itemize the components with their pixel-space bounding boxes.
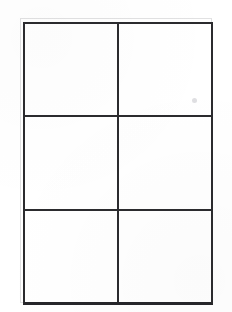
grid-table bbox=[23, 22, 213, 305]
grid-cell-text-r2c0 bbox=[25, 211, 117, 302]
grid-cell-text-r1c0 bbox=[25, 117, 117, 209]
grid-cell-r0c1[interactable] bbox=[119, 24, 211, 117]
grid-cell-r2c1[interactable] bbox=[119, 211, 211, 302]
grid-cell-r2c0[interactable] bbox=[25, 211, 119, 302]
grid-cells-container bbox=[25, 24, 211, 302]
grid-cell-r0c0[interactable] bbox=[25, 24, 119, 117]
grid-cell-r1c1[interactable] bbox=[119, 117, 211, 211]
grid-cell-text-r2c1 bbox=[119, 211, 211, 302]
scanned-page bbox=[0, 0, 232, 312]
grid-cell-r1c0[interactable] bbox=[25, 117, 119, 211]
grid-cell-text-r1c1 bbox=[119, 117, 211, 209]
grid-cell-text-r0c0 bbox=[25, 24, 117, 115]
grid-cell-text-r0c1 bbox=[119, 24, 211, 115]
